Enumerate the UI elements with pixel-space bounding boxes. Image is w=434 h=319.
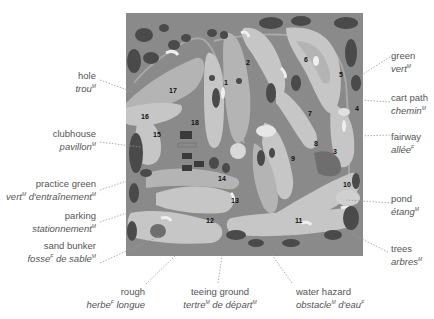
svg-text:2: 2 xyxy=(246,59,250,66)
svg-text:10: 10 xyxy=(343,181,351,188)
svg-text:8: 8 xyxy=(314,140,318,147)
svg-text:4: 4 xyxy=(355,105,359,112)
svg-text:7: 7 xyxy=(308,110,312,117)
svg-text:17: 17 xyxy=(169,87,177,94)
svg-text:1: 1 xyxy=(224,79,228,86)
label-parking: parking stationnementM xyxy=(32,210,96,234)
label-pond: pond étangM xyxy=(391,193,419,217)
svg-text:3: 3 xyxy=(333,148,337,155)
golf-course-map: 1 2 3 4 5 6 7 8 9 10 11 12 13 14 15 16 1… xyxy=(126,13,363,256)
svg-text:13: 13 xyxy=(231,197,239,204)
label-green: green vertM xyxy=(391,50,415,74)
label-trees: trees arbresM xyxy=(391,243,422,267)
label-teeing-ground: teeing ground tertreM de départM xyxy=(180,286,260,310)
svg-text:14: 14 xyxy=(218,175,226,182)
svg-text:16: 16 xyxy=(141,113,149,120)
label-cart-path: cart path cheminM xyxy=(391,92,428,116)
label-fairway: fairway alléeF xyxy=(391,131,421,155)
svg-text:18: 18 xyxy=(191,119,199,126)
label-sand-bunker: sand bunker fosseF de sableM xyxy=(27,240,96,264)
label-water-hazard: water hazard obstacleM d'eauF xyxy=(296,286,364,310)
label-clubhouse: clubhouse pavillonM xyxy=(53,128,96,152)
svg-text:12: 12 xyxy=(206,217,214,224)
svg-text:15: 15 xyxy=(153,131,161,138)
svg-text:6: 6 xyxy=(304,56,308,63)
svg-text:5: 5 xyxy=(339,71,343,78)
svg-text:9: 9 xyxy=(291,155,295,162)
label-rough: rough herbeF longue xyxy=(86,286,145,310)
label-hole: hole trouM xyxy=(75,70,96,94)
label-practice-green: practice green vertM d'entraînementM xyxy=(6,178,96,202)
svg-text:11: 11 xyxy=(295,217,303,224)
